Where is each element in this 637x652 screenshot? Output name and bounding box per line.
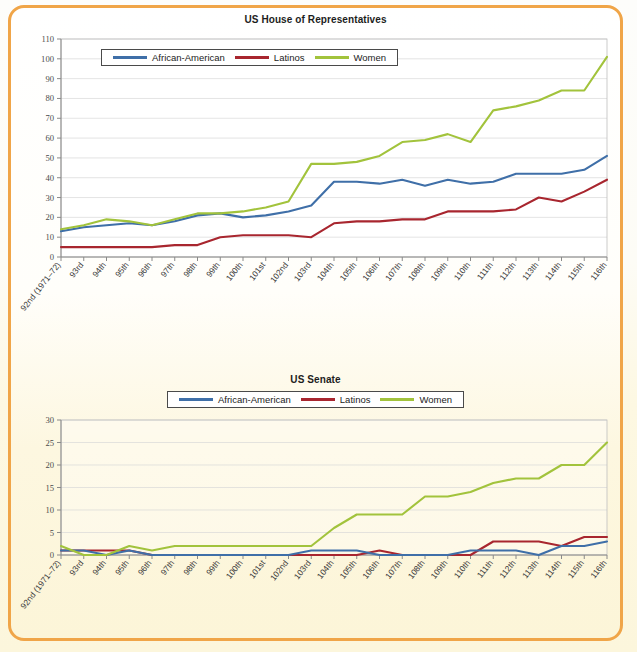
senate-legend: African-American Latinos Women (11, 391, 620, 408)
house-chart-title: US House of Representatives (11, 14, 620, 25)
figure-panel: US House of Representatives 010203040506… (8, 5, 623, 641)
x-tick-label: 108th (406, 260, 427, 283)
x-tick-label: 96th (136, 558, 154, 577)
x-tick-label: 112th (497, 558, 518, 580)
x-tick-label: 110th (452, 260, 473, 282)
x-tick-label: 103rd (292, 558, 313, 581)
x-tick-label: 115th (565, 558, 586, 580)
x-tick-label: 95th (113, 260, 131, 279)
y-tick-label: 15 (45, 483, 54, 493)
x-tick-label: 109th (429, 260, 450, 283)
legend-label-latinos: Latinos (340, 394, 371, 405)
legend-label-african-american: African-American (152, 52, 225, 63)
x-tick-label: 108th (406, 558, 427, 581)
legend-swatch-latinos (301, 398, 335, 401)
x-tick-label: 92nd (1971–72) (18, 558, 62, 611)
x-tick-label: 104th (315, 260, 336, 283)
legend-label-latinos: Latinos (274, 52, 305, 63)
y-tick-label: 100 (41, 54, 54, 64)
x-tick-label: 113th (520, 558, 541, 580)
y-tick-label: 60 (45, 133, 54, 143)
y-tick-label: 50 (45, 153, 54, 163)
legend-swatch-women (380, 398, 414, 401)
x-tick-label: 116th (588, 260, 609, 282)
x-tick-label: 113th (520, 260, 541, 282)
y-tick-label: 30 (45, 193, 54, 203)
x-tick-label: 107th (383, 558, 404, 581)
y-tick-label: 10 (45, 505, 54, 515)
x-tick-label: 111th (475, 260, 495, 282)
x-tick-label: 100th (224, 558, 245, 581)
house-legend-item-latinos: Latinos (230, 52, 310, 63)
house-plot-svg: 010203040506070809010011092nd (1971–72)9… (11, 25, 620, 335)
house-chart: US House of Representatives 010203040506… (11, 14, 620, 335)
senate-legend-box: African-American Latinos Women (167, 391, 464, 408)
senate-legend-item-women: Women (375, 394, 457, 405)
senate-legend-item-african-american: African-American (174, 394, 296, 405)
senate-plot-area: 05101520253092nd (1971–72)93rd94th95th96… (11, 410, 620, 641)
senate-plot-svg: 05101520253092nd (1971–72)93rd94th95th96… (11, 410, 620, 641)
x-tick-label: 101st (247, 558, 268, 581)
x-tick-label: 99th (204, 260, 222, 279)
house-plot-area: 010203040506070809010011092nd (1971–72)9… (11, 25, 620, 335)
house-legend-box: African-American Latinos Women (101, 49, 398, 66)
senate-legend-item-latinos: Latinos (296, 394, 376, 405)
y-tick-label: 20 (45, 460, 54, 470)
legend-swatch-women (315, 56, 349, 59)
x-tick-label: 94th (90, 260, 108, 279)
legend-swatch-african-american (113, 56, 147, 59)
y-tick-label: 10 (45, 232, 54, 242)
x-tick-label: 98th (181, 260, 199, 279)
x-tick-label: 93rd (67, 558, 85, 578)
legend-label-african-american: African-American (218, 394, 291, 405)
x-tick-label: 101st (247, 260, 268, 283)
x-tick-label: 105th (338, 558, 359, 581)
y-tick-label: 5 (50, 528, 54, 538)
x-tick-label: 110th (452, 558, 473, 580)
x-tick-label: 115th (565, 260, 586, 282)
x-tick-label: 100th (224, 260, 245, 283)
x-tick-label: 104th (315, 558, 336, 581)
y-tick-label: 40 (45, 173, 54, 183)
x-tick-label: 94th (90, 558, 108, 577)
x-tick-label: 105th (338, 260, 359, 283)
x-tick-label: 114th (543, 558, 564, 580)
x-tick-label: 107th (383, 260, 404, 283)
x-tick-label: 98th (181, 558, 199, 577)
y-tick-label: 80 (45, 93, 54, 103)
legend-label-women: Women (354, 52, 387, 63)
x-tick-label: 99th (204, 558, 222, 577)
house-legend-item-women: Women (310, 52, 392, 63)
x-tick-label: 97th (158, 260, 176, 279)
x-tick-label: 116th (588, 558, 609, 580)
x-tick-label: 114th (543, 260, 564, 282)
x-tick-label: 96th (136, 260, 154, 279)
x-tick-label: 102nd (268, 260, 290, 285)
senate-chart-title: US Senate (11, 374, 620, 385)
legend-swatch-african-american (179, 398, 213, 401)
legend-swatch-latinos (235, 56, 269, 59)
x-tick-label: 103rd (292, 260, 313, 283)
x-tick-label: 95th (113, 558, 131, 577)
x-tick-label: 102nd (268, 558, 290, 583)
y-tick-label: 25 (45, 438, 54, 448)
house-legend: African-American Latinos Women (101, 49, 398, 66)
x-tick-label: 92nd (1971–72) (18, 260, 62, 313)
x-tick-label: 93rd (67, 260, 85, 280)
senate-chart: US Senate African-American Latinos Women… (11, 374, 620, 641)
x-tick-label: 106th (360, 260, 381, 283)
y-tick-label: 90 (45, 74, 54, 84)
y-tick-label: 30 (45, 415, 54, 425)
x-tick-label: 112th (497, 260, 518, 282)
x-tick-label: 109th (429, 558, 450, 581)
x-tick-label: 97th (158, 558, 176, 577)
house-legend-item-african-american: African-American (108, 52, 230, 63)
x-tick-label: 106th (360, 558, 381, 581)
y-tick-label: 20 (45, 212, 54, 222)
y-tick-label: 70 (45, 113, 54, 123)
y-tick-label: 110 (41, 34, 54, 44)
legend-label-women: Women (419, 394, 452, 405)
x-tick-label: 111th (475, 558, 495, 580)
